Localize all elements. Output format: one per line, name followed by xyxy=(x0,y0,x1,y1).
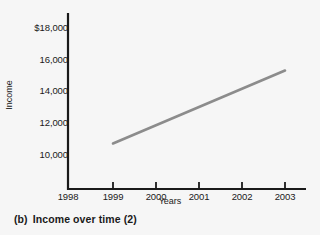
figure-caption-index: (b) xyxy=(14,213,28,225)
x-tick-label-2003: 2003 xyxy=(262,192,308,202)
figure-caption: (b)Income over time (2) xyxy=(14,213,137,225)
y-tick-label-12000: 12,000 xyxy=(14,118,68,128)
x-tick-label-2002: 2002 xyxy=(219,192,265,202)
series-line-income xyxy=(113,71,285,144)
plot-area: $18,000 16,000 14,000 12,000 10,000 1998… xyxy=(0,0,320,205)
x-tick-label-1998: 1998 xyxy=(45,192,91,202)
y-tick-label-16000: 16,000 xyxy=(14,55,68,65)
y-axis-title: Income xyxy=(4,67,14,123)
y-tick-label-14000: 14,000 xyxy=(14,86,68,96)
y-tick-label-18000: $18,000 xyxy=(14,23,68,33)
chart-figure: $18,000 16,000 14,000 12,000 10,000 1998… xyxy=(0,0,320,235)
x-axis-title: Years xyxy=(130,196,210,206)
figure-caption-text: Income over time (2) xyxy=(33,213,137,225)
y-tick-label-10000: 10,000 xyxy=(14,150,68,160)
